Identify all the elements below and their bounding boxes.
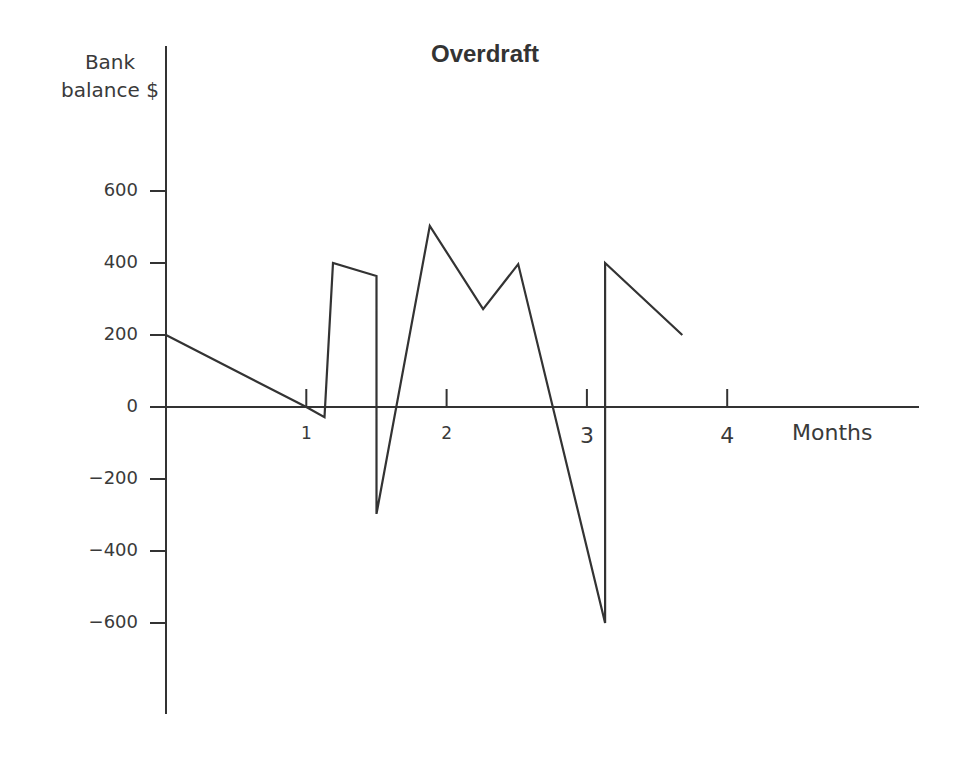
y-tick-label: 400 — [78, 251, 138, 272]
x-tick-label: 3 — [567, 423, 607, 448]
x-tick-label: 1 — [286, 423, 326, 443]
y-tick-label: −400 — [78, 539, 138, 560]
y-tick-label: −200 — [78, 467, 138, 488]
x-tick-label: 2 — [427, 423, 467, 443]
y-tick-label: 600 — [78, 179, 138, 200]
x-tick-label: 4 — [707, 423, 747, 448]
y-tick-label: 200 — [78, 323, 138, 344]
line-chart — [0, 0, 970, 760]
y-tick-label: 0 — [78, 395, 138, 416]
axes — [150, 46, 919, 714]
y-tick-label: −600 — [78, 611, 138, 632]
